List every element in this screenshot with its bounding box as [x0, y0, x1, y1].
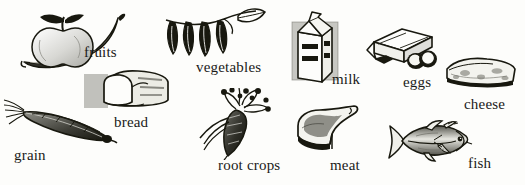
label-eggs: eggs [403, 75, 431, 90]
pea-pods-on-vine-icon [160, 6, 270, 62]
fish-icon [382, 120, 474, 162]
label-fruits: fruits [84, 45, 117, 60]
food-groups-illustration: fruits vegetables [0, 0, 525, 185]
illustration-fish [382, 120, 474, 162]
label-meat: meat [330, 158, 360, 173]
label-grain: grain [14, 148, 46, 163]
label-root-crops: root crops [218, 158, 280, 173]
meat-cut-icon [292, 104, 364, 156]
illustration-cheese [443, 56, 519, 94]
illustration-grain [2, 96, 118, 146]
illustration-eggs [362, 26, 440, 72]
label-vegetables: vegetables [196, 60, 261, 75]
label-bread: bread [114, 115, 148, 130]
label-fish: fish [468, 156, 491, 171]
illustration-root-crops [196, 88, 280, 160]
carrot-icon [196, 88, 280, 160]
egg-carton-icon [362, 26, 440, 72]
label-cheese: cheese [464, 97, 505, 112]
grain-ear-icon [2, 96, 118, 146]
label-milk: milk [332, 72, 360, 87]
illustration-meat [292, 104, 364, 156]
illustration-vegetables [160, 6, 270, 62]
cheese-wedge-icon [443, 56, 519, 94]
